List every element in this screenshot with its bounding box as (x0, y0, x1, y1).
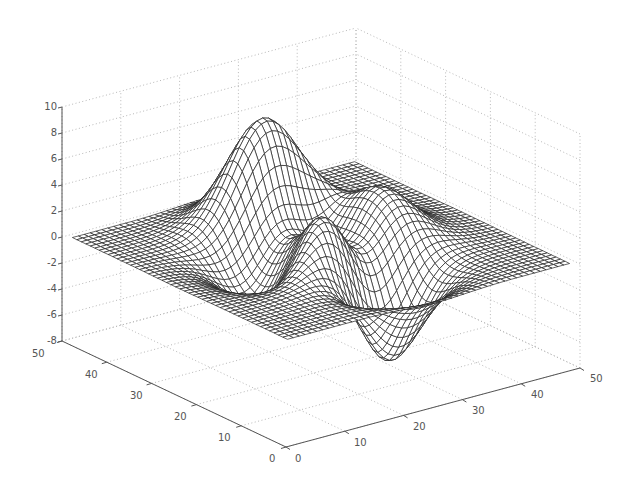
y-tick-10: 10 (218, 432, 231, 443)
x-tick-10: 10 (354, 437, 367, 448)
x-tick-40: 40 (531, 389, 544, 400)
x-tick-50: 50 (590, 373, 603, 384)
y-tick-50: 50 (32, 348, 45, 359)
z-tick-8: 8 (51, 127, 57, 138)
z-tick-4: 4 (51, 179, 57, 190)
z-tick-6: 6 (51, 153, 57, 164)
x-tick-20: 20 (413, 421, 426, 432)
z-tick-neg6: -6 (47, 309, 57, 320)
y-tick-20: 20 (174, 411, 187, 422)
z-tick-0: 0 (51, 231, 57, 242)
z-tick-neg8: -8 (47, 335, 57, 346)
y-tick-0: 0 (269, 453, 275, 464)
y-tick-40: 40 (85, 369, 98, 380)
z-tick-neg2: -2 (47, 257, 57, 268)
surface-plot: 10 8 6 4 2 0 -2 -4 -6 -8 50 40 30 20 10 … (0, 0, 630, 488)
x-tick-30: 30 (472, 405, 485, 416)
x-tick-0: 0 (295, 453, 301, 464)
z-tick-2: 2 (51, 205, 57, 216)
y-tick-30: 30 (130, 390, 143, 401)
surface-mesh (72, 118, 569, 360)
z-tick-neg4: -4 (47, 283, 57, 294)
z-tick-10: 10 (44, 101, 57, 112)
